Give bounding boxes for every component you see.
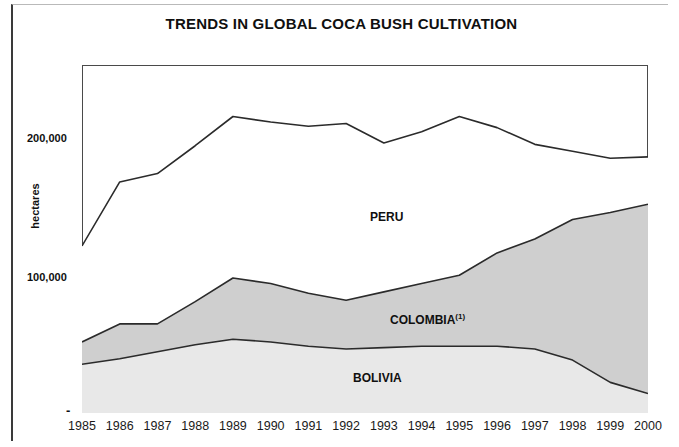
chart-title: TRENDS IN GLOBAL COCA BUSH CULTIVATION <box>13 15 670 32</box>
y-tick-100000: 100,000 <box>27 271 67 283</box>
figure-panel: TRENDS IN GLOBAL COCA BUSH CULTIVATION 2… <box>11 4 668 441</box>
series-label-colombia: COLOMBIA(1) <box>390 312 465 327</box>
area-chart <box>82 65 648 413</box>
series-label-peru: PERU <box>370 210 403 224</box>
plot-area <box>82 65 648 413</box>
series-label-colombia-text: COLOMBIA <box>390 313 455 327</box>
y-tick-zero: - <box>66 403 70 418</box>
x-tick-2000: 2000 <box>626 419 670 433</box>
x-axis-ticks: 1985198619871988198919901991199219931994… <box>82 419 648 439</box>
y-tick-200000: 200,000 <box>27 132 67 144</box>
y-axis-title: hectares <box>29 176 41 236</box>
series-label-bolivia: BOLIVIA <box>353 371 402 385</box>
footnote-marker: (1) <box>455 312 465 321</box>
